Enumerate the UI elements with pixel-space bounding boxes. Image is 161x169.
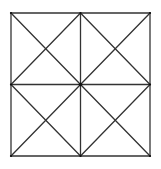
vertex-dot bbox=[79, 12, 81, 14]
vertex-dot bbox=[79, 83, 83, 87]
vertex-dot bbox=[149, 12, 151, 14]
vertex-dot bbox=[10, 12, 12, 14]
vertex-dot bbox=[149, 155, 151, 157]
vertex-dot bbox=[10, 83, 12, 85]
geometric-diagram bbox=[0, 0, 161, 169]
vertex-dot bbox=[79, 155, 81, 157]
vertex-dot bbox=[149, 83, 151, 85]
vertex-dot bbox=[10, 155, 12, 157]
grid-of-diagonals-figure bbox=[0, 0, 161, 169]
